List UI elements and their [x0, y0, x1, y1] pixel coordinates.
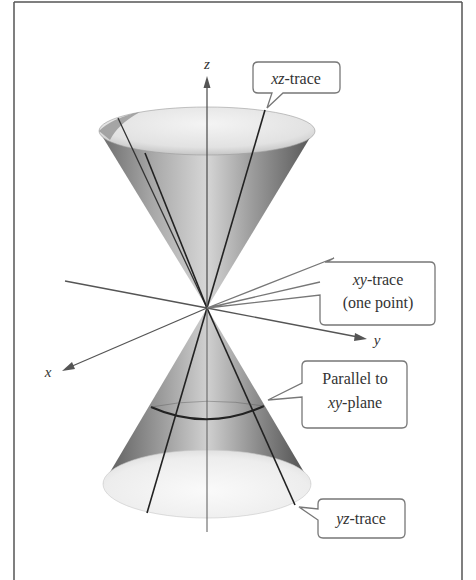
y-axis-label: y: [372, 332, 381, 348]
callout-yz-trace: yz-trace: [299, 499, 405, 538]
callout-parallel-line2: xy-plane: [327, 394, 382, 412]
callout-parallel-line1: Parallel to: [322, 370, 387, 387]
y-axis-arrow-icon: [354, 333, 367, 341]
x-axis-label: x: [44, 364, 52, 380]
callout-parallel-plane: Parallel to xy-plane: [268, 361, 407, 428]
figure-frame: z x y xz-trace xy-trace (one point) Para…: [0, 0, 476, 580]
double-cone-diagram: z x y xz-trace xy-trace (one point) Para…: [0, 0, 476, 580]
callout-xy-trace-line1: xy-trace: [352, 271, 404, 289]
z-axis-arrow-icon: [204, 76, 211, 88]
x-axis-arrow-icon: [62, 362, 75, 371]
callout-yz-trace-text: yz-trace: [334, 510, 386, 528]
x-axis-back: [65, 281, 207, 308]
callout-xy-trace-line2: (one point): [343, 294, 414, 312]
callout-xz-trace: xz-trace: [253, 62, 340, 108]
z-axis-label: z: [203, 56, 210, 72]
callout-xz-trace-text: xz-trace: [270, 70, 321, 87]
lower-nappe: [103, 308, 311, 532]
